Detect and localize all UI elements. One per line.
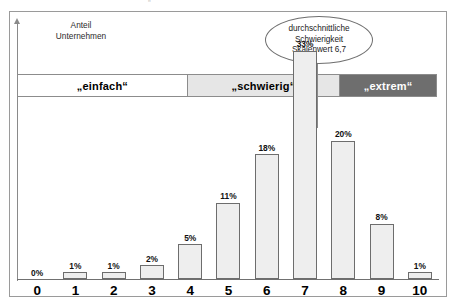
bar-value-label-7: 33%: [286, 39, 324, 49]
bar-slot: 11%: [209, 23, 247, 279]
bar-9[interactable]: [370, 224, 394, 279]
bar-value-label-10: 1%: [401, 261, 439, 271]
bar-6[interactable]: [255, 154, 279, 279]
bar-slot: 0%: [18, 23, 56, 279]
x-tick-5: 5: [209, 283, 247, 298]
bar-4[interactable]: [178, 244, 202, 279]
bar-slot: 1%: [401, 23, 439, 279]
x-tick-9: 9: [362, 283, 400, 298]
bar-value-label-9: 8%: [362, 212, 400, 222]
bar-1[interactable]: [63, 272, 87, 279]
bar-slot: 20%: [324, 23, 362, 279]
x-tick-3: 3: [133, 283, 171, 298]
bar-2[interactable]: [102, 272, 126, 279]
bar-slot: 2%: [133, 23, 171, 279]
page-text-remnant: „ ”: [0, 0, 456, 8]
bar-5[interactable]: [216, 203, 240, 279]
x-axis-tick-labels: 012345678910: [18, 283, 439, 303]
bar-value-label-1: 1%: [56, 261, 94, 271]
remnant-center: „ ”: [148, 0, 156, 3]
bar-value-label-0: 0%: [18, 268, 56, 278]
x-axis-line: [17, 279, 439, 280]
bar-slot: 5%: [171, 23, 209, 279]
bar-10[interactable]: [408, 272, 432, 279]
x-tick-6: 6: [248, 283, 286, 298]
bar-value-label-5: 11%: [209, 191, 247, 201]
bar-slot: 1%: [56, 23, 94, 279]
bar-value-label-8: 20%: [324, 129, 362, 139]
bar-7[interactable]: [293, 51, 317, 279]
bar-value-label-4: 5%: [171, 233, 209, 243]
bar-value-label-6: 18%: [248, 143, 286, 153]
bar-slot: 8%: [362, 23, 400, 279]
bar-value-label-2: 1%: [95, 261, 133, 271]
bar-value-label-3: 2%: [133, 254, 171, 264]
bar-series: 0%1%1%2%5%11%18%33%20%8%1%: [18, 23, 439, 279]
x-tick-1: 1: [56, 283, 94, 298]
bar-slot: 1%: [95, 23, 133, 279]
x-tick-8: 8: [324, 283, 362, 298]
bar-3[interactable]: [140, 265, 164, 279]
x-tick-2: 2: [95, 283, 133, 298]
bar-8[interactable]: [331, 141, 355, 279]
chart-plot-area: Anteil Unternehmen „einfach“„schwierig“„…: [9, 11, 447, 297]
x-tick-0: 0: [18, 283, 56, 298]
bar-slot: 33%: [286, 23, 324, 279]
x-tick-10: 10: [401, 283, 439, 298]
x-tick-7: 7: [286, 283, 324, 298]
bar-slot: 18%: [248, 23, 286, 279]
x-tick-4: 4: [171, 283, 209, 298]
